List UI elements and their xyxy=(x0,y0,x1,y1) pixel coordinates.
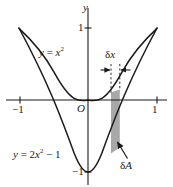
curve-label-upper-exponent: 2 xyxy=(61,45,64,52)
x-tick-label-neg-one: −1 xyxy=(12,104,24,115)
x-tick-label-one: 1 xyxy=(152,104,158,115)
parabolas-area-element-figure: y = x2 y = 2x2 − 1 y 1 O −1 1 −1 δx δA xyxy=(0,0,173,187)
origin-label: O xyxy=(77,103,85,114)
delta-a-label: δA xyxy=(120,160,132,171)
curve-label-lower-lhs: y xyxy=(13,148,18,160)
delta-a-variable: A xyxy=(125,159,132,171)
delta-x-variable: x xyxy=(110,48,115,60)
y-tick-label-one: 1 xyxy=(78,22,84,33)
curve-label-lower-parabola: y = 2x2 − 1 xyxy=(13,149,61,160)
curve-label-upper-parabola: y = x2 xyxy=(39,47,64,58)
curve-label-lower-tail: − 1 xyxy=(46,148,60,160)
curve-label-upper-equals: = xyxy=(47,46,53,58)
y-axis-label: y xyxy=(83,2,88,13)
curve-label-lower-exponent: 2 xyxy=(40,147,43,154)
y-tick-label-neg-one: −1 xyxy=(72,166,84,177)
delta-x-label: δx xyxy=(105,49,115,60)
curve-label-lower-equals: = xyxy=(21,148,27,160)
delta-a-leader-arrow xyxy=(118,142,128,159)
